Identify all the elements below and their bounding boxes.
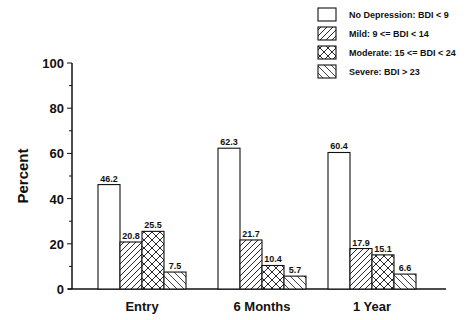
bar (142, 231, 164, 289)
bar-value-label: 60.4 (330, 141, 348, 151)
bar (98, 185, 120, 289)
bar (218, 148, 240, 289)
bar (120, 242, 142, 289)
x-category-label: 1 Year (353, 299, 391, 314)
bar-value-label: 62.3 (220, 137, 238, 147)
legend-label: Moderate: 15 <= BDI < 24 (349, 48, 456, 58)
y-tick-label: 60 (50, 146, 64, 161)
bar (262, 265, 284, 289)
legend-label: Mild: 9 <= BDI < 14 (349, 29, 429, 39)
y-tick-label: 40 (50, 192, 64, 207)
bar (350, 249, 372, 289)
bars: 46.220.825.57.5Entry62.321.710.45.76 Mon… (98, 137, 416, 314)
bar-value-label: 10.4 (264, 254, 282, 264)
bar-value-label: 20.8 (122, 231, 140, 241)
x-category-label: 6 Months (233, 299, 290, 314)
legend-swatch (318, 46, 336, 59)
bar (240, 240, 262, 289)
bar-value-label: 6.6 (399, 263, 412, 273)
y-tick-label: 100 (42, 56, 64, 71)
bar (372, 255, 394, 289)
legend-label: No Depression: BDI < 9 (349, 10, 449, 20)
bar-value-label: 15.1 (374, 244, 392, 254)
bar (328, 152, 350, 289)
bar-value-label: 5.7 (289, 265, 302, 275)
legend-swatch (318, 65, 336, 78)
legend-label: Severe: BDI > 23 (349, 67, 420, 77)
y-axis-label: Percent (14, 148, 31, 203)
bar-value-label: 21.7 (242, 229, 260, 239)
legend-swatch (318, 8, 336, 21)
bar-chart: 020406080100Percent 46.220.825.57.5Entry… (0, 0, 468, 320)
bar-value-label: 46.2 (100, 174, 118, 184)
bar (284, 276, 306, 289)
y-tick-label: 20 (50, 237, 64, 252)
bar (164, 272, 186, 289)
legend-swatch (318, 27, 336, 40)
x-category-label: Entry (125, 299, 159, 314)
y-tick-label: 0 (57, 282, 64, 297)
y-tick-label: 80 (50, 101, 64, 116)
bar (394, 274, 416, 289)
legend: No Depression: BDI < 9Mild: 9 <= BDI < 1… (318, 8, 456, 78)
bar-value-label: 17.9 (352, 238, 370, 248)
bar-value-label: 7.5 (169, 261, 182, 271)
bar-value-label: 25.5 (144, 220, 162, 230)
